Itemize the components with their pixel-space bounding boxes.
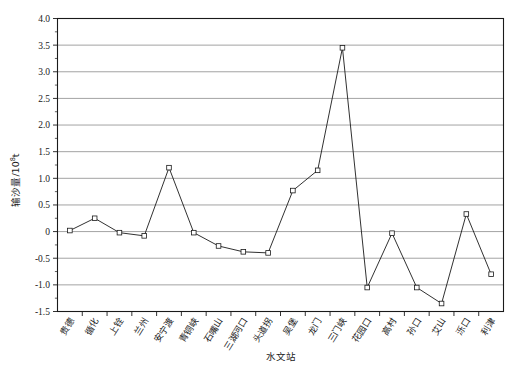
y-tick-label: 0.5 [38,200,50,210]
data-point-marker-16 [464,212,469,217]
y-tick-label: 2.0 [38,120,50,130]
data-point-marker-1 [92,216,97,221]
y-tick-label: -1.0 [35,280,50,290]
data-point-marker-5 [191,230,196,235]
data-point-marker-7 [241,250,246,255]
y-tick-label: 4.0 [38,14,50,24]
data-point-marker-0 [68,228,73,233]
y-tick-label: -0.5 [35,254,50,264]
data-point-marker-2 [117,230,122,235]
data-point-marker-9 [291,188,296,193]
data-point-marker-12 [365,285,370,290]
data-point-marker-10 [315,168,320,173]
y-tick-label: 1.5 [38,147,50,157]
sediment-load-line-chart: 4.03.53.02.52.01.51.00.50-0.5-1.0-1.5 贵德… [0,0,531,375]
y-tick-label: -1.5 [35,307,50,317]
data-point-marker-6 [216,244,221,249]
y-tick-label: 1.0 [38,174,50,184]
y-tick-label: 3.5 [38,41,50,51]
x-axis-title-text: 水文站 [266,351,296,362]
data-point-marker-17 [489,272,494,277]
data-point-marker-8 [266,251,271,256]
data-point-marker-11 [340,46,345,51]
chart-canvas: 4.03.53.02.52.01.51.00.50-0.5-1.0-1.5 贵德… [0,0,531,375]
y-tick-label: 0 [45,227,50,237]
data-point-marker-13 [390,231,395,236]
y-tick-label: 2.5 [38,94,50,104]
y-tick-label: 3.0 [38,67,50,77]
data-point-marker-15 [439,301,444,306]
data-point-marker-3 [142,234,147,239]
data-point-marker-14 [414,285,419,290]
data-point-marker-4 [167,165,172,170]
